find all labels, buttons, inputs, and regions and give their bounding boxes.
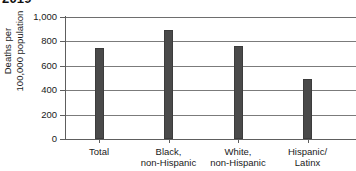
bar[interactable] — [164, 30, 173, 139]
gridline — [65, 41, 356, 42]
bar-chart-figure: 2019 Deaths per 100,000 population 02004… — [0, 0, 356, 171]
gridline — [65, 115, 356, 116]
y-tick-label: 600 — [41, 61, 57, 71]
x-tick-mark — [308, 140, 309, 143]
x-tick-mark — [169, 140, 170, 143]
y-tick-mark — [60, 90, 65, 91]
y-axis-title: Deaths per 100,000 population — [2, 0, 28, 103]
y-axis-line — [65, 16, 66, 140]
y-tick-label: 800 — [41, 36, 57, 46]
gridline — [65, 17, 356, 18]
gridline — [65, 90, 356, 91]
x-tick-mark — [238, 140, 239, 143]
y-tick-label: 1,000 — [33, 12, 57, 22]
y-tick-mark — [60, 115, 65, 116]
bar[interactable] — [234, 46, 243, 139]
y-tick-mark — [60, 41, 65, 42]
y-tick-mark — [60, 66, 65, 67]
plot-area — [65, 17, 356, 139]
y-tick-label: 400 — [41, 85, 57, 95]
bar[interactable] — [95, 48, 104, 139]
bar[interactable] — [303, 79, 312, 139]
x-axis-line — [65, 139, 356, 140]
y-tick-label: 0 — [52, 134, 57, 144]
x-tick-mark — [99, 140, 100, 143]
y-tick-mark — [60, 17, 65, 18]
x-category-label: Hispanic/ Latinx — [265, 146, 351, 168]
gridline — [65, 66, 356, 67]
y-tick-mark — [60, 139, 65, 140]
y-tick-label: 200 — [41, 110, 57, 120]
